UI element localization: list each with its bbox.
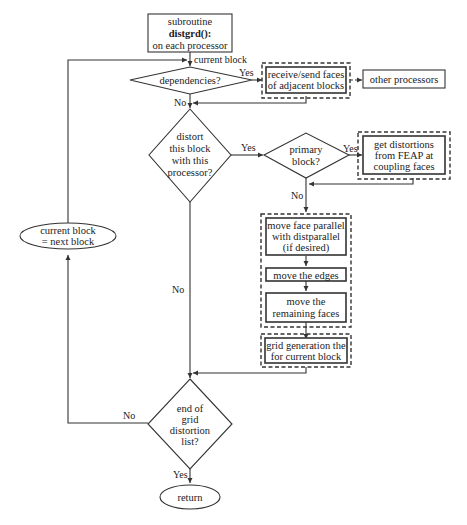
- node-move-remaining: move the remaining faces: [266, 293, 346, 322]
- svg-text:other processors: other processors: [370, 74, 439, 85]
- svg-text:for current block: for current block: [271, 351, 342, 362]
- svg-text:distgrd():: distgrd():: [169, 28, 212, 40]
- label-primary-no: No: [291, 190, 303, 201]
- node-dependencies: dependencies?: [130, 67, 252, 94]
- node-primary: primary block?: [264, 133, 349, 178]
- svg-text:move the: move the: [287, 296, 326, 307]
- label-distort-no: No: [172, 284, 184, 295]
- svg-text:on each processor: on each processor: [152, 40, 228, 51]
- label-dependencies-no: No: [174, 97, 186, 108]
- svg-text:receive/send faces: receive/send faces: [268, 69, 345, 80]
- svg-text:primary: primary: [289, 144, 323, 155]
- svg-text:processor?: processor?: [168, 167, 213, 178]
- svg-text:(if desired): (if desired): [283, 242, 330, 254]
- svg-text:from FEAP at: from FEAP at: [375, 150, 434, 161]
- svg-text:return: return: [177, 492, 203, 503]
- label-end-yes: Yes: [173, 469, 188, 480]
- node-move-edges: move the edges: [266, 268, 346, 281]
- node-other-processors: other processors: [363, 70, 445, 88]
- svg-text:get distortions: get distortions: [374, 139, 434, 150]
- label-primary-yes: Yes: [343, 143, 358, 154]
- svg-text:of adjacent blocks: of adjacent blocks: [268, 80, 344, 91]
- svg-text:list?: list?: [181, 436, 199, 447]
- edge-receive-return: [193, 96, 306, 103]
- node-get-distortions: get distortions from FEAP at coupling fa…: [358, 132, 450, 179]
- node-move-face: move face parallel with distparallel (if…: [266, 218, 346, 255]
- svg-text:this block: this block: [169, 143, 211, 154]
- label-dependencies-yes: Yes: [239, 67, 254, 78]
- svg-text:current block: current block: [40, 225, 96, 236]
- node-return: return: [160, 485, 220, 509]
- svg-text:= next block: = next block: [42, 236, 95, 247]
- svg-text:remaining faces: remaining faces: [273, 308, 340, 319]
- svg-text:grid: grid: [182, 414, 200, 425]
- svg-text:move face parallel: move face parallel: [267, 220, 345, 231]
- svg-text:with this: with this: [172, 155, 208, 166]
- node-receive-send: receive/send faces of adjacent blocks: [262, 63, 350, 98]
- label-current-block: current block: [194, 54, 247, 65]
- svg-text:move the edges: move the edges: [273, 270, 338, 281]
- node-start: subroutine distgrd(): on each processor: [148, 14, 232, 52]
- svg-text:coupling faces: coupling faces: [374, 161, 435, 172]
- svg-text:subroutine: subroutine: [168, 16, 213, 27]
- svg-text:end of: end of: [177, 403, 204, 414]
- svg-text:distortion: distortion: [170, 425, 211, 436]
- svg-text:with distparallel: with distparallel: [272, 231, 340, 242]
- node-grid-generation: grid generation the for current block: [261, 334, 351, 367]
- node-end-of-list: end of grid distortion list?: [148, 379, 232, 469]
- label-end-no: No: [123, 410, 135, 421]
- node-next-block: current block = next block: [20, 223, 116, 249]
- svg-text:block?: block?: [292, 156, 320, 167]
- svg-text:grid generation the: grid generation the: [266, 340, 346, 351]
- svg-text:distort: distort: [177, 131, 204, 142]
- edge-end-no: [68, 255, 148, 423]
- label-distort-yes: Yes: [241, 142, 256, 153]
- edge-grid-to-end: [193, 367, 306, 373]
- svg-text:dependencies?: dependencies?: [159, 75, 221, 86]
- flowchart: subroutine distgrd(): on each processor …: [0, 0, 467, 525]
- node-distort: distort this block with this processor?: [149, 109, 231, 202]
